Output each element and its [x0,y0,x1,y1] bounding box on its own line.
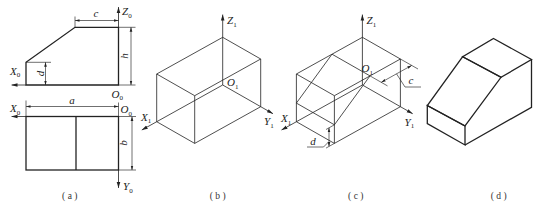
cut-line-left [296,103,334,125]
cut-line-front-slant [334,76,370,125]
dim-b-label: b [117,140,129,146]
figure-b: Z1 O1 X1 Y1 (b) [140,14,274,202]
z1-axis-label: Z1 [367,14,377,29]
dim-c-extension-inner [370,76,388,86]
y0-axis-label: Y0 [123,180,133,195]
dim-d-extension-top [326,125,334,130]
dim-d-label: d [310,135,316,147]
z1-axis-label: Z1 [227,14,237,29]
y1-axis [362,85,412,114]
x1-axis [142,85,223,130]
dim-a-label: a [69,94,75,106]
dim-d-label: d [34,70,46,76]
x0-axis-label-top: X0 [9,102,21,117]
x1-axis [282,85,363,130]
box-bottom-edges [157,107,261,144]
y1-axis-label: Y1 [264,115,274,130]
y1-axis [223,85,273,114]
top-face [463,39,532,78]
x1-axis-label: X1 [280,112,292,127]
front-view: c h d X0 Z0 O0 [9,5,136,102]
dim-h-label: h [118,53,130,59]
x0-axis-label: X0 [9,65,21,80]
caption-d: (d) [491,191,510,202]
top-view: a b X0 O0 Y0 [9,94,136,195]
dim-c-label: c [409,74,414,86]
y1-axis-label: Y1 [405,116,415,131]
o0-origin-label-top: O0 [121,103,133,118]
cut-line-back-slant [296,54,332,103]
o0-origin-label: O0 [112,88,124,103]
caption-b: (b) [210,191,229,202]
inclined-face [427,57,501,126]
caption-c: (c) [348,191,366,202]
box-top-face [157,37,261,95]
z0-axis-label: Z0 [122,5,132,20]
diagram-canvas: c h d X0 Z0 O0 a b X0 O0 Y0 (a) [0,0,540,209]
solid-block [427,39,531,146]
figure-a: c h d X0 Z0 O0 a b X0 O0 Y0 (a) [9,5,136,202]
left-face [427,106,465,146]
x1-axis-label: X1 [140,111,152,126]
dim-d-extension-bottom [326,143,334,148]
bounding-box [157,37,261,143]
bounding-box [296,37,400,143]
figure-d: (d) [427,39,531,202]
top-view-outline [26,117,119,171]
box-top-face [296,37,400,95]
figure-c: c d Z1 O1 X1 Y1 (c) [280,14,421,202]
dim-c-extension-outer [400,59,418,69]
right-face-edges [465,60,532,146]
caption-a: (a) [62,191,80,202]
cut-plane-lines [296,54,370,125]
dim-c-label: c [94,7,99,19]
